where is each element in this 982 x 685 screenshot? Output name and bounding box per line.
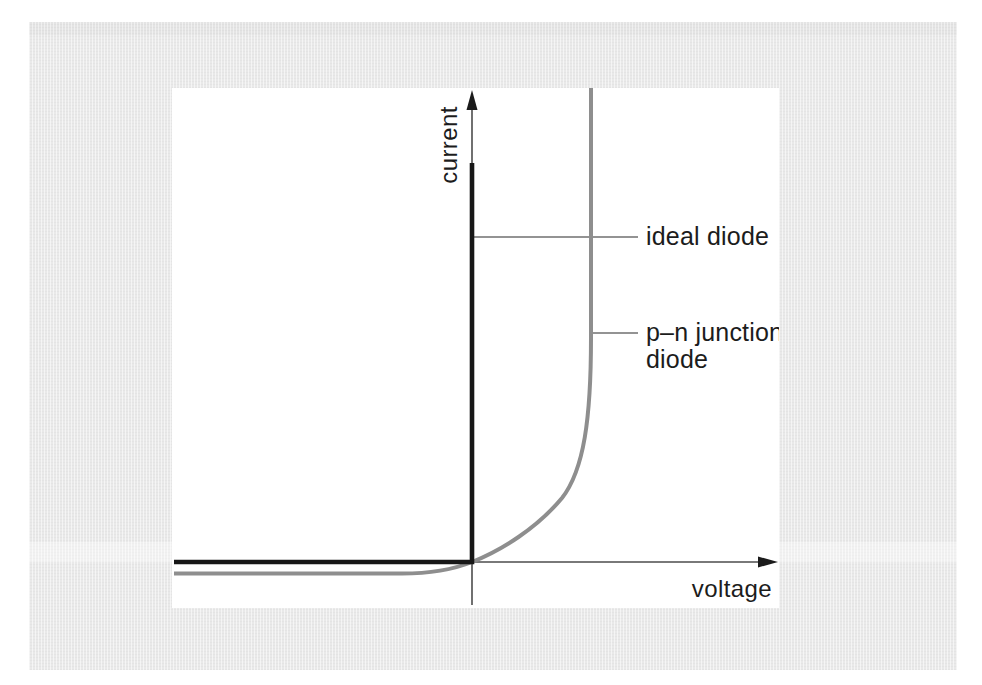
pn-diode-label-line1: p–n junction (646, 318, 779, 346)
diode-iv-plot: current voltage ideal diode p–n junction… (172, 88, 779, 608)
scan-artifact-band-top (29, 22, 957, 35)
page: current voltage ideal diode p–n junction… (0, 0, 982, 685)
ideal-diode-curve (174, 163, 472, 562)
y-axis-arrow-icon (467, 90, 478, 110)
y-axis-label: current (435, 106, 462, 184)
x-axis-label: voltage (692, 575, 772, 602)
pn-diode-label-line2: diode (646, 345, 708, 373)
pn-junction-curve (174, 88, 591, 574)
x-axis-arrow-icon (758, 557, 778, 568)
ideal-diode-label: ideal diode (646, 222, 769, 250)
figure-plate: current voltage ideal diode p–n junction… (29, 22, 957, 670)
diode-iv-chart: current voltage ideal diode p–n junction… (172, 88, 779, 608)
